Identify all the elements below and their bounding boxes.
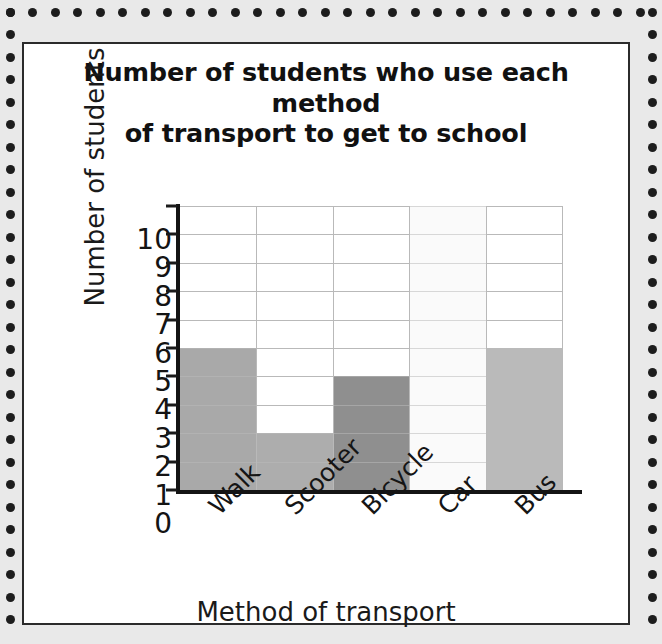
border-dot [6, 188, 15, 197]
border-dot [501, 8, 510, 17]
y-tick-mark [166, 489, 177, 492]
border-dot [648, 593, 657, 602]
border-dot [28, 8, 37, 17]
y-tick-label-1: 1 [154, 482, 172, 510]
y-tick-label-2: 2 [154, 453, 172, 481]
border-dot [648, 143, 657, 152]
chart-title-line-2: of transport to get to school [42, 118, 610, 149]
border-dot [231, 8, 240, 17]
border-dot [6, 548, 15, 557]
gridline-horizontal-overlay [180, 291, 562, 292]
border-dot [648, 75, 657, 84]
border-dot [648, 390, 657, 399]
border-dot [343, 8, 352, 17]
y-tick-label-8: 8 [154, 283, 172, 311]
y-tick-mark [166, 261, 177, 264]
border-dot [591, 8, 600, 17]
y-tick-label-4: 4 [154, 396, 172, 424]
y-tick-mark [166, 318, 177, 321]
border-dot [6, 368, 15, 377]
border-dot [6, 615, 15, 624]
border-dot [96, 8, 105, 17]
gridline-horizontal-overlay [180, 348, 562, 349]
border-dot [648, 300, 657, 309]
y-tick-mark [166, 233, 177, 236]
border-dot [648, 8, 657, 17]
border-dot [648, 345, 657, 354]
border-dot [6, 30, 15, 39]
border-dot [253, 8, 262, 17]
y-tick-label-6: 6 [154, 340, 172, 368]
border-dot [6, 233, 15, 242]
gridline-vertical [562, 206, 563, 490]
border-dot [433, 8, 442, 17]
border-dot [636, 8, 645, 17]
border-dot [6, 345, 15, 354]
border-dot [6, 120, 15, 129]
gridline-horizontal-overlay [180, 263, 562, 264]
border-dot [73, 8, 82, 17]
border-dot [568, 8, 577, 17]
border-dot [648, 368, 657, 377]
border-dot [186, 8, 195, 17]
border-dot [208, 8, 217, 17]
border-dot [546, 8, 555, 17]
border-dot [6, 593, 15, 602]
worksheet-card: Number of students who use each method o… [22, 42, 630, 625]
border-dot [6, 165, 15, 174]
border-dot [456, 8, 465, 17]
border-dot [6, 8, 15, 17]
y-tick-label-5: 5 [154, 368, 172, 396]
gridline-horizontal-overlay [180, 462, 562, 463]
border-dot [648, 413, 657, 422]
plot-area [180, 206, 562, 490]
gridline-horizontal-overlay [180, 405, 562, 406]
border-dot [523, 8, 532, 17]
y-tick-mark [166, 347, 177, 350]
border-dot [478, 8, 487, 17]
y-axis-title: Number of students [80, 27, 110, 327]
gridline-horizontal-overlay [180, 433, 562, 434]
border-dot [648, 615, 657, 624]
border-dot [648, 120, 657, 129]
border-dot [648, 98, 657, 107]
border-dot [6, 278, 15, 287]
border-dot [6, 75, 15, 84]
border-dot [6, 480, 15, 489]
y-tick-mark [166, 290, 177, 293]
gridline-horizontal-overlay [180, 376, 562, 377]
border-dot [648, 30, 657, 39]
border-dot [648, 458, 657, 467]
border-dot [6, 255, 15, 264]
gridline-horizontal-overlay [180, 206, 562, 207]
border-dot [648, 233, 657, 242]
border-dot [648, 525, 657, 534]
border-dot [6, 98, 15, 107]
border-dot [6, 570, 15, 579]
border-dot [411, 8, 420, 17]
bar-bus [486, 348, 562, 490]
y-tick-mark [166, 460, 177, 463]
y-tick-label-0: 0 [154, 510, 172, 538]
gridline-horizontal-overlay [180, 234, 562, 235]
border-dot [163, 8, 172, 17]
border-dot [6, 503, 15, 512]
border-dot [6, 435, 15, 444]
border-dot [6, 210, 15, 219]
y-tick-mark [166, 403, 177, 406]
border-dot [648, 188, 657, 197]
border-dot [648, 503, 657, 512]
y-tick-label-10: 10 [136, 226, 172, 254]
y-axis-tick-labels: 012345678910 [122, 206, 172, 490]
border-dot [366, 8, 375, 17]
border-dot [6, 323, 15, 332]
border-dot [613, 8, 622, 17]
border-dot [6, 525, 15, 534]
chart-title: Number of students who use each method o… [24, 44, 628, 149]
x-axis-title: Method of transport [24, 597, 628, 627]
border-dot [298, 8, 307, 17]
border-dot [648, 480, 657, 489]
border-dot [648, 278, 657, 287]
border-dot [6, 458, 15, 467]
border-dot [118, 8, 127, 17]
